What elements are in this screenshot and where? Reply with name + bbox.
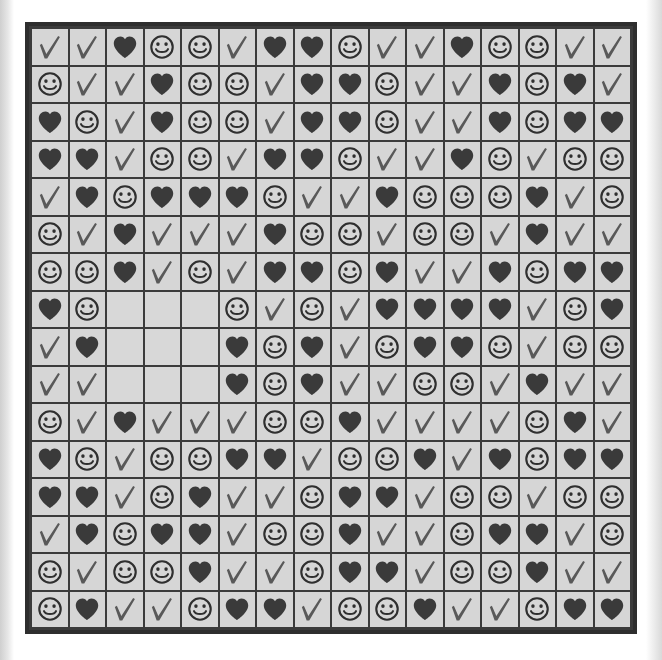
grid-cell[interactable] — [295, 442, 331, 478]
grid-cell[interactable] — [445, 404, 481, 440]
grid-cell[interactable] — [70, 142, 106, 178]
grid-cell[interactable] — [145, 142, 181, 178]
grid-cell[interactable] — [370, 179, 406, 215]
grid-cell-empty[interactable] — [145, 329, 181, 365]
grid-cell[interactable] — [70, 217, 106, 253]
grid-cell[interactable] — [145, 479, 181, 515]
grid-cell[interactable] — [407, 442, 443, 478]
grid-cell[interactable] — [557, 104, 593, 140]
grid-cell[interactable] — [145, 554, 181, 590]
grid-cell[interactable] — [332, 179, 368, 215]
grid-cell[interactable] — [445, 179, 481, 215]
grid-cell[interactable] — [220, 67, 256, 103]
grid-cell[interactable] — [482, 254, 518, 290]
grid-cell[interactable] — [107, 217, 143, 253]
grid-cell[interactable] — [220, 554, 256, 590]
grid-cell[interactable] — [445, 592, 481, 628]
grid-cell[interactable] — [332, 367, 368, 403]
grid-cell[interactable] — [482, 29, 518, 65]
grid-cell[interactable] — [557, 67, 593, 103]
grid-cell[interactable] — [32, 367, 68, 403]
grid-cell[interactable] — [445, 104, 481, 140]
grid-cell[interactable] — [445, 479, 481, 515]
grid-cell[interactable] — [107, 104, 143, 140]
grid-cell[interactable] — [107, 442, 143, 478]
grid-cell[interactable] — [32, 29, 68, 65]
grid-cell[interactable] — [70, 292, 106, 328]
grid-cell[interactable] — [145, 104, 181, 140]
grid-cell[interactable] — [220, 404, 256, 440]
grid-cell[interactable] — [220, 517, 256, 553]
grid-cell[interactable] — [370, 517, 406, 553]
grid-cell[interactable] — [295, 329, 331, 365]
grid-cell[interactable] — [445, 517, 481, 553]
grid-cell[interactable] — [595, 254, 631, 290]
grid-cell[interactable] — [70, 67, 106, 103]
grid-cell[interactable] — [332, 29, 368, 65]
grid-cell-empty[interactable] — [182, 367, 218, 403]
grid-cell[interactable] — [70, 367, 106, 403]
grid-cell[interactable] — [482, 142, 518, 178]
grid-cell[interactable] — [595, 29, 631, 65]
grid-cell[interactable] — [445, 142, 481, 178]
grid-cell[interactable] — [557, 367, 593, 403]
grid-cell[interactable] — [107, 67, 143, 103]
grid-cell[interactable] — [182, 142, 218, 178]
grid-cell[interactable] — [70, 592, 106, 628]
grid-cell[interactable] — [332, 104, 368, 140]
grid-cell[interactable] — [145, 217, 181, 253]
grid-cell[interactable] — [182, 179, 218, 215]
grid-cell[interactable] — [407, 329, 443, 365]
grid-cell[interactable] — [295, 592, 331, 628]
grid-cell[interactable] — [257, 292, 293, 328]
grid-cell[interactable] — [482, 217, 518, 253]
grid-cell[interactable] — [107, 479, 143, 515]
grid-cell[interactable] — [295, 29, 331, 65]
grid-cell[interactable] — [32, 254, 68, 290]
grid-cell[interactable] — [445, 554, 481, 590]
grid-cell[interactable] — [482, 592, 518, 628]
grid-cell[interactable] — [257, 554, 293, 590]
grid-cell[interactable] — [595, 217, 631, 253]
grid-cell[interactable] — [257, 367, 293, 403]
grid-cell[interactable] — [257, 517, 293, 553]
grid-cell[interactable] — [445, 254, 481, 290]
grid-cell[interactable] — [332, 517, 368, 553]
grid-cell[interactable] — [595, 517, 631, 553]
grid-cell[interactable] — [295, 217, 331, 253]
grid-cell[interactable] — [295, 517, 331, 553]
grid-cell[interactable] — [595, 179, 631, 215]
grid-cell[interactable] — [32, 104, 68, 140]
grid-cell[interactable] — [370, 554, 406, 590]
grid-cell[interactable] — [32, 329, 68, 365]
grid-cell[interactable] — [407, 517, 443, 553]
grid-cell[interactable] — [445, 67, 481, 103]
grid-cell[interactable] — [295, 404, 331, 440]
grid-cell[interactable] — [407, 179, 443, 215]
grid-cell[interactable] — [482, 404, 518, 440]
grid-cell[interactable] — [370, 142, 406, 178]
grid-cell[interactable] — [257, 142, 293, 178]
grid-cell[interactable] — [407, 29, 443, 65]
grid-cell[interactable] — [557, 517, 593, 553]
grid-cell[interactable] — [257, 104, 293, 140]
grid-cell[interactable] — [295, 104, 331, 140]
grid-cell[interactable] — [145, 404, 181, 440]
grid-cell[interactable] — [520, 592, 556, 628]
grid-cell[interactable] — [595, 67, 631, 103]
grid-cell-empty[interactable] — [145, 367, 181, 403]
grid-cell[interactable] — [145, 67, 181, 103]
grid-cell-empty[interactable] — [182, 329, 218, 365]
grid-cell[interactable] — [107, 554, 143, 590]
grid-cell[interactable] — [520, 67, 556, 103]
grid-cell[interactable] — [32, 517, 68, 553]
grid-cell[interactable] — [557, 142, 593, 178]
grid-cell[interactable] — [407, 142, 443, 178]
grid-cell[interactable] — [295, 554, 331, 590]
grid-cell[interactable] — [445, 292, 481, 328]
grid-cell[interactable] — [182, 442, 218, 478]
grid-cell[interactable] — [257, 404, 293, 440]
grid-cell[interactable] — [370, 292, 406, 328]
grid-cell[interactable] — [220, 592, 256, 628]
grid-cell[interactable] — [295, 254, 331, 290]
